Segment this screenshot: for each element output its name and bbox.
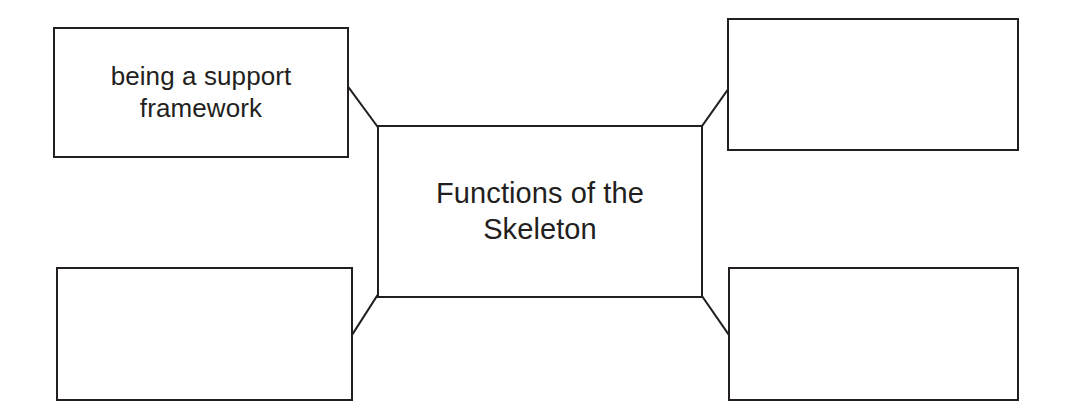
connector-center-to-bottom-left: [352, 296, 377, 335]
node-label-top-left: being a support framework: [101, 61, 302, 124]
concept-map-canvas: being a support framework Functions of t…: [0, 0, 1068, 420]
node-label-center: Functions of the Skeleton: [426, 176, 654, 247]
connector-center-to-top-left: [349, 88, 377, 126]
connector-center-to-top-right: [702, 88, 729, 126]
node-box-top-left[interactable]: being a support framework: [53, 27, 349, 158]
node-box-top-right[interactable]: [727, 18, 1019, 151]
node-box-bottom-left[interactable]: [56, 267, 353, 401]
connector-center-to-bottom-right: [702, 296, 729, 335]
node-box-bottom-right[interactable]: [728, 267, 1019, 401]
node-box-center[interactable]: Functions of the Skeleton: [377, 125, 703, 298]
